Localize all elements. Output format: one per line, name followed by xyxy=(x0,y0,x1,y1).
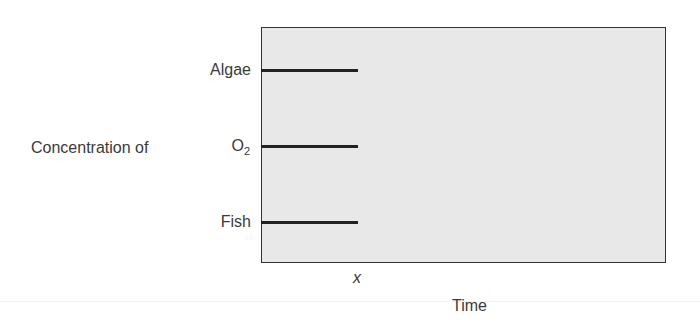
algae-line xyxy=(261,69,358,72)
o2-subscript: 2 xyxy=(244,145,250,157)
y-axis-label: Concentration of xyxy=(31,139,148,157)
o2-label-text: O xyxy=(231,137,243,154)
fish-label: Fish xyxy=(221,213,251,231)
o2-line xyxy=(261,145,358,148)
x-marker: x xyxy=(353,269,361,287)
o2-label: O2 xyxy=(231,137,250,157)
fish-line xyxy=(261,221,358,224)
bottom-divider xyxy=(0,301,700,302)
x-axis-label: Time xyxy=(452,297,487,315)
algae-label: Algae xyxy=(210,61,251,79)
